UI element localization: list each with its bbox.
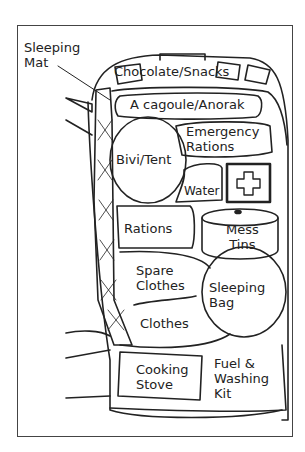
cross-icon (237, 172, 260, 195)
sleeping-mat-callout-label: Sleeping Mat (24, 40, 80, 70)
emergency-rations-label: Emergency Rations (186, 124, 259, 154)
fuel-washing-kit-label: Fuel & Washing Kit (214, 356, 269, 401)
clothes-divider (134, 296, 196, 305)
cagoule-label: A cagoule/Anorak (130, 97, 245, 112)
cooking-stove-label: Cooking Stove (136, 362, 189, 392)
sleeping-bag-label: Sleeping Bag (209, 280, 265, 310)
rations-label: Rations (124, 221, 172, 236)
snack-box-3 (245, 65, 270, 84)
bivi-tent-label: Bivi/Tent (116, 152, 171, 167)
first-aid-box (227, 164, 270, 202)
mess-tins-label: Mess Tins (226, 222, 259, 252)
clothes-label: Clothes (140, 316, 189, 331)
callout-line (58, 66, 110, 100)
sleeping-mat (94, 88, 132, 345)
spare-clothes-label: Spare Clothes (136, 263, 185, 293)
chocolate-snacks-label: Chocolate/Snacks (114, 64, 229, 79)
water-label: Water (184, 184, 219, 199)
